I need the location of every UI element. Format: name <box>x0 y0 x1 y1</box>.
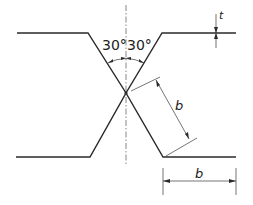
thickness-label: t <box>219 9 224 22</box>
angle-label-left: 30° <box>102 37 127 53</box>
weld-joint-diagram: 30° 30° t b b <box>0 0 253 205</box>
angle-label-right: 30° <box>127 37 152 53</box>
angle-arrow-left-icon <box>108 59 113 63</box>
horizontal-arrow-right-icon <box>229 179 236 183</box>
diagonal-dimension-label: b <box>175 98 183 113</box>
angle-arrow-right-icon <box>139 59 144 63</box>
diagonal-extension-line-top <box>131 77 160 91</box>
diagonal-dimension-line <box>156 80 189 139</box>
diagonal-extension-line-bottom <box>166 138 197 156</box>
thickness-arrow-bottom-icon <box>214 33 218 39</box>
thickness-arrow-top-icon <box>214 27 218 33</box>
horizontal-arrow-left-icon <box>163 179 170 183</box>
horizontal-dimension-label: b <box>195 166 203 181</box>
